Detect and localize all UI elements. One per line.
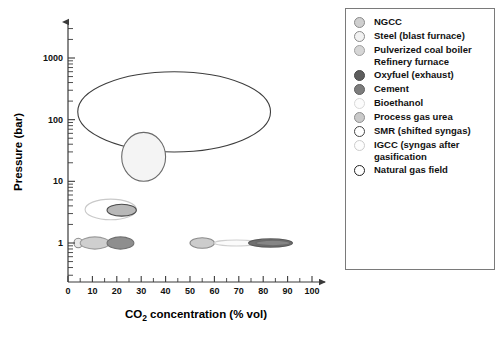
axis-major-ticks [68,58,312,282]
x-tick-label-20: 20 [112,286,122,296]
x-tick-label-40: 40 [161,286,171,296]
legend-item-oxyfuel-exhaust[interactable]: Oxyfuel (exhaust) [346,69,494,81]
y-tick-label-10: 10 [53,176,63,186]
legend-item-natural-gas-field[interactable]: Natural gas field [346,164,494,176]
x-tick-label-10: 10 [87,286,97,296]
x-tick-label-70: 70 [234,286,244,296]
legend-item-label: Cement [374,83,409,95]
data-ellipse-pulverized-coal-boiler-refinery-furnace [107,237,134,249]
data-ellipse-process-gas-urea [107,204,136,216]
legend-item-label: Steel (blast furnace) [374,30,465,42]
legend-marker-icon [354,98,365,109]
legend-item-label: Pulverized coal boilerRefinery furnace [374,44,472,67]
legend-marker-icon [354,31,365,42]
figure-container: 01020304050607080901001101001000 Pressur… [0,0,503,338]
legend-marker-icon [354,140,365,151]
legend-item-process-gas-urea[interactable]: Process gas urea [346,111,494,123]
legend-item-ngcc[interactable]: NGCC [346,16,494,28]
data-ellipse-ngcc [80,237,109,249]
x-tick-label-80: 80 [258,286,268,296]
legend-marker-icon [354,84,365,95]
legend-item-igcc-syngas-after[interactable]: IGCC (syngas aftergasification [346,139,494,162]
legend-item-cement[interactable]: Cement [346,83,494,95]
axis-tick-labels: 01020304050607080901001101001000 [43,53,320,297]
legend-item-label: Bioethanol [374,97,423,109]
data-ellipse-cement [256,240,290,245]
legend-marker-icon [354,165,365,176]
x-tick-label-60: 60 [209,286,219,296]
legend-item-label: Oxyfuel (exhaust) [374,69,454,81]
legend-item-label-line2: gasification [374,151,460,163]
legend-item-smr-shifted-syngas[interactable]: SMR (shifted syngas) [346,125,494,137]
x-tick-label-0: 0 [65,286,70,296]
y-tick-label-1: 1 [58,238,63,248]
x-tick-label-30: 30 [136,286,146,296]
y-axis-title: Pressure (bar) [12,113,24,191]
legend-item-label: Process gas urea [374,111,453,123]
legend-item-bioethanol[interactable]: Bioethanol [346,97,494,109]
legend-marker-icon [354,112,365,123]
legend-item-label-line2: Refinery furnace [374,56,472,68]
legend-item-label: SMR (shifted syngas) [374,125,471,137]
legend-marker-icon [354,17,365,28]
x-tick-label-50: 50 [185,286,195,296]
legend-item-pulverized-coal-boiler[interactable]: Pulverized coal boilerRefinery furnace [346,44,494,67]
data-ellipse-process-gas-urea-low-pressure [190,238,214,249]
legend-marker-icon [354,45,365,56]
y-tick-label-1000: 1000 [43,53,63,63]
legend-item-label: IGCC (syngas aftergasification [374,139,460,162]
legend-item-label: NGCC [374,16,402,28]
x-axis-title: CO2 concentration (% vol) [125,308,267,323]
legend-item-steel-blast-furnace[interactable]: Steel (blast furnace) [346,30,494,42]
x-tick-label-90: 90 [283,286,293,296]
x-tick-label-100: 100 [304,286,319,296]
y-tick-label-100: 100 [48,115,63,125]
data-ellipse-smr-shifted-syngas [122,132,166,181]
data-ellipse-natural-gas-field [78,72,271,152]
chart-legend: NGCCSteel (blast furnace)Pulverized coal… [345,8,495,270]
legend-marker-icon [354,70,365,81]
legend-item-label: Natural gas field [374,164,448,176]
data-ellipses [74,72,293,249]
legend-marker-icon [354,126,365,137]
